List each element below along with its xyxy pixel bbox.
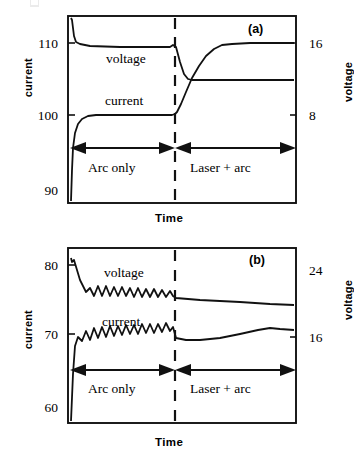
zone-label-arc-only-b: Arc only <box>88 381 136 397</box>
chart-panel-b: current voltage 80 70 60 24 16 (b) volta… <box>0 234 358 467</box>
y-tick-left-b-80: 80 <box>24 258 58 274</box>
zone-label-laser-arc-b: Laser + arc <box>190 381 251 397</box>
chart-panel-a: current voltage 110 100 90 16 8 (a) volt… <box>0 0 358 233</box>
x-axis-label-a: Time <box>155 212 183 224</box>
y-axis-label-right-b: voltage <box>342 280 354 320</box>
y-tick-left-a-110: 110 <box>24 36 58 52</box>
panel-letter-a: (a) <box>248 22 263 36</box>
zone-arrow-arc-only-a <box>70 142 175 154</box>
trace-label-current-a: current <box>105 93 143 109</box>
zone-label-laser-arc-a: Laser + arc <box>190 160 251 176</box>
zone-arrow-arc-only-b <box>70 364 175 376</box>
y-tick-left-a-90: 90 <box>24 183 58 199</box>
zone-label-arc-only-a: Arc only <box>88 160 136 176</box>
y-tick-right-b-24: 24 <box>309 263 323 279</box>
panel-letter-b: (b) <box>249 253 265 267</box>
y-tick-right-a-16: 16 <box>309 36 323 52</box>
zone-arrow-laser-arc-b <box>175 364 296 376</box>
y-axis-label-left-a: current <box>22 58 34 97</box>
y-tick-left-b-70: 70 <box>24 327 58 343</box>
y-tick-right-a-8: 8 <box>309 108 316 124</box>
trace-label-voltage-b: voltage <box>104 265 144 281</box>
trace-label-voltage-a: voltage <box>106 51 146 67</box>
zone-arrow-laser-arc-a <box>175 142 296 154</box>
x-axis-label-b: Time <box>155 436 183 448</box>
trace-label-current-b: current <box>102 314 140 330</box>
y-tick-left-a-100: 100 <box>24 108 58 124</box>
y-tick-left-b-60: 60 <box>24 400 58 416</box>
y-tick-right-b-16: 16 <box>309 330 323 346</box>
y-axis-label-right-a: voltage <box>342 62 354 102</box>
